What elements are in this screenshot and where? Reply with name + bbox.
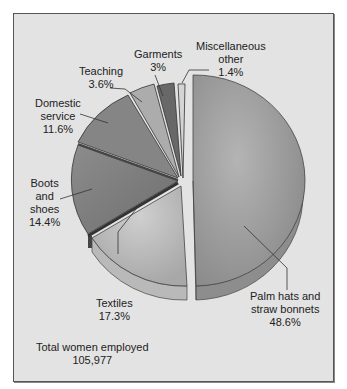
- label-garments-value: 3%: [134, 61, 182, 74]
- label-palm-value: 48.6%: [250, 316, 320, 329]
- label-boots-shoes: Boots and shoes 14.4%: [29, 177, 60, 229]
- label-boots-value: 14.4%: [29, 216, 60, 229]
- slice-palm-hats: [193, 75, 305, 300]
- label-misc-value: 1.4%: [196, 66, 266, 79]
- label-garments-name: Garments: [134, 48, 182, 61]
- label-misc-name-1: Miscellaneous: [196, 40, 266, 53]
- label-teaching-name: Teaching: [79, 65, 123, 78]
- label-domestic-service: Domestic service 11.6%: [35, 97, 81, 136]
- label-palm-name-1: Palm hats and: [250, 290, 320, 303]
- label-palm-name-2: straw bonnets: [250, 303, 320, 316]
- label-domestic-value: 11.6%: [35, 123, 81, 136]
- label-textiles-name: Textiles: [96, 297, 133, 310]
- label-boots-name-3: shoes: [29, 203, 60, 216]
- label-textiles-value: 17.3%: [96, 310, 133, 323]
- label-boots-name-1: Boots: [29, 177, 60, 190]
- label-teaching-value: 3.6%: [79, 78, 123, 91]
- total-label: Total women employed: [36, 341, 149, 354]
- label-domestic-name-2: service: [35, 110, 81, 123]
- label-misc-name-2: other: [196, 53, 266, 66]
- label-palm-hats: Palm hats and straw bonnets 48.6%: [250, 290, 320, 329]
- label-domestic-name-1: Domestic: [35, 97, 81, 110]
- label-boots-name-2: and: [29, 190, 60, 203]
- total-value: 105,977: [36, 354, 149, 367]
- label-garments: Garments 3%: [134, 48, 182, 74]
- label-miscellaneous: Miscellaneous other 1.4%: [196, 40, 266, 79]
- label-textiles: Textiles 17.3%: [96, 297, 133, 323]
- label-teaching: Teaching 3.6%: [79, 65, 123, 91]
- total-annotation: Total women employed 105,977: [36, 341, 149, 367]
